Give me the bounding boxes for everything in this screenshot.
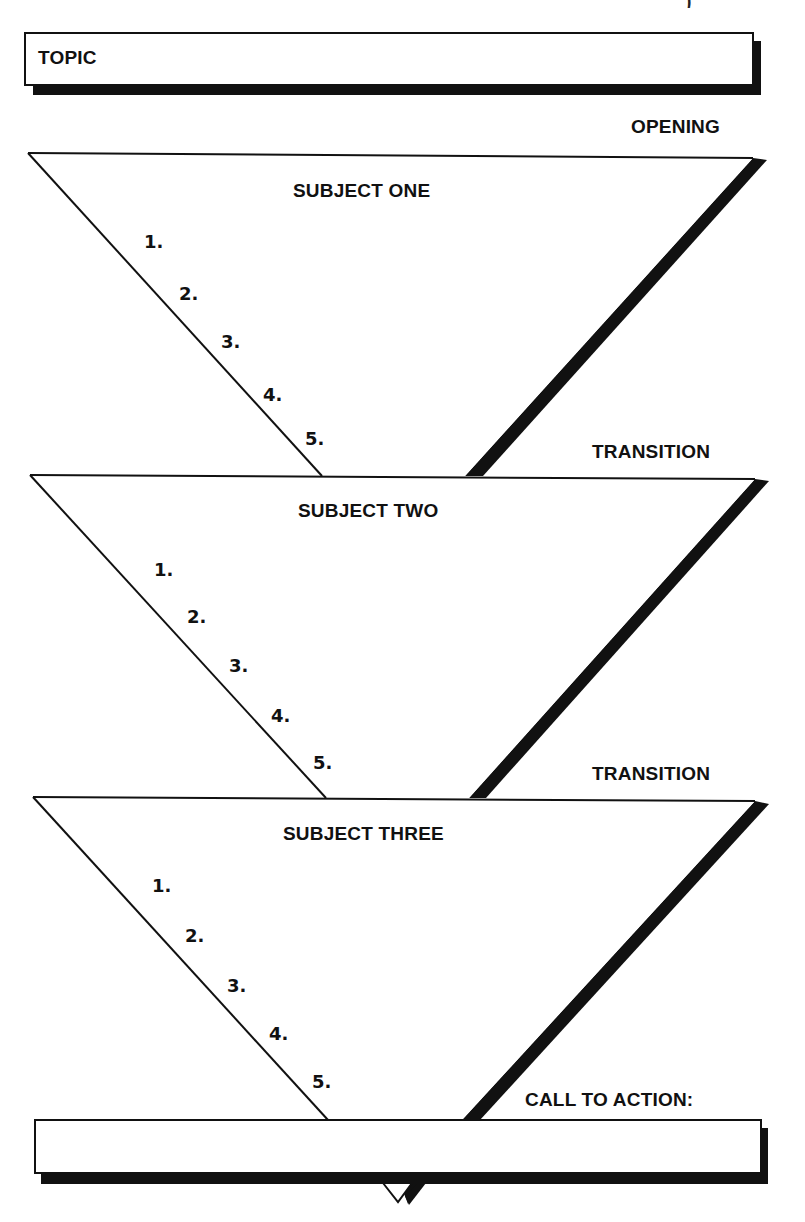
funnel-tip-graphic (383, 1183, 426, 1205)
section-one-point-3[interactable]: 3. (221, 331, 240, 352)
section-three-point-5[interactable]: 5. (312, 1071, 331, 1092)
call-to-action-box[interactable] (35, 1120, 761, 1173)
section-one-point-4[interactable]: 4. (263, 384, 282, 405)
section-three-point-3[interactable]: 3. (227, 975, 246, 996)
subject-three-heading: SUBJECT THREE (283, 823, 444, 845)
section-two-point-1[interactable]: 1. (154, 559, 173, 580)
section-one-point-2[interactable]: 2. (179, 283, 198, 304)
section-two-point-5[interactable]: 5. (313, 752, 332, 773)
topic-box[interactable]: TOPIC (25, 33, 753, 85)
section-two-point-4[interactable]: 4. (271, 705, 290, 726)
section-three-point-1[interactable]: 1. (152, 875, 171, 896)
opening-marker: OPENING (631, 116, 720, 138)
subject-one-heading: SUBJECT ONE (293, 180, 430, 202)
transition-marker-2: TRANSITION (592, 763, 710, 785)
section-three-point-4[interactable]: 4. (269, 1023, 288, 1044)
transition-marker-1: TRANSITION (592, 441, 710, 463)
call-to-action-label: CALL TO ACTION: (525, 1089, 693, 1111)
section-two-point-3[interactable]: 3. (229, 655, 248, 676)
section-three-funnel-graphic (33, 797, 769, 1120)
section-one-point-1[interactable]: 1. (144, 231, 163, 252)
subject-two-heading: SUBJECT TWO (298, 500, 438, 522)
section-three-point-2[interactable]: 2. (185, 925, 204, 946)
cropped-header-text: ) (0, 0, 805, 8)
section-one-point-5[interactable]: 5. (305, 428, 324, 449)
section-two-point-2[interactable]: 2. (187, 606, 206, 627)
topic-label: TOPIC (38, 47, 97, 69)
section-two-funnel-graphic (30, 475, 769, 798)
